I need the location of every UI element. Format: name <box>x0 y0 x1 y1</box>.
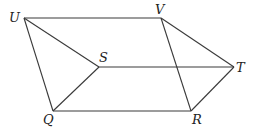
edge-sq <box>53 67 99 111</box>
edge-rt <box>191 67 234 111</box>
edge-vr <box>161 18 191 111</box>
edges-group <box>24 18 234 111</box>
vertex-label-s: S <box>99 50 108 65</box>
vertex-label-q: Q <box>43 112 54 127</box>
vertex-label-r: R <box>191 112 202 127</box>
edge-uq <box>24 18 53 111</box>
vertex-label-t: T <box>236 60 246 75</box>
labels-group: U V S T Q R <box>9 2 246 127</box>
vertex-label-u: U <box>9 10 21 25</box>
vertex-label-v: V <box>155 2 166 17</box>
geometry-diagram: U V S T Q R <box>0 0 259 132</box>
edge-vt <box>161 18 234 67</box>
edge-us <box>24 18 99 67</box>
